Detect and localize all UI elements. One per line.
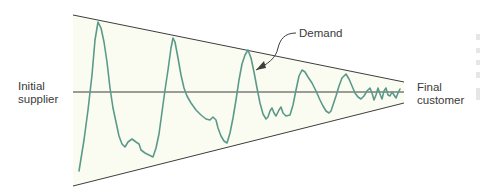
cropped-edge-fragment [476, 48, 480, 53]
cropped-edge-fragment [476, 60, 480, 65]
cropped-edge-fragment [476, 88, 480, 100]
initial-supplier-label-line2: supplier [18, 93, 58, 106]
final-customer-label: Final customer [417, 81, 464, 107]
final-customer-label-line1: Final [417, 81, 464, 94]
demand-label: Demand [299, 27, 342, 40]
cropped-edge-fragment [476, 34, 480, 40]
initial-supplier-label: Initial supplier [18, 80, 58, 106]
initial-supplier-label-line1: Initial [18, 80, 58, 93]
bullwhip-diagram [0, 0, 480, 196]
final-customer-label-line2: customer [417, 94, 464, 107]
cropped-edge-fragment [476, 72, 480, 78]
funnel-area [73, 15, 404, 186]
